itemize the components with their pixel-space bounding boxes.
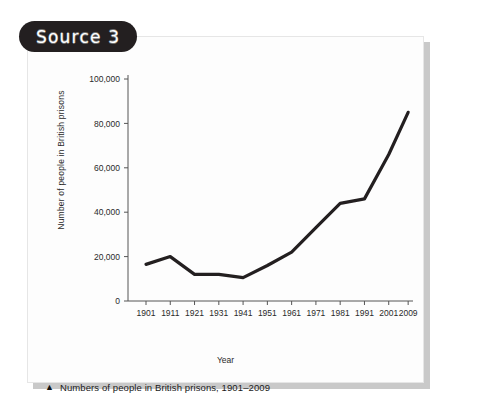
y-tick-label: 40,000: [94, 207, 120, 217]
x-tick-label: 1911: [161, 308, 180, 318]
x-tick-label: 1991: [355, 308, 374, 318]
chart-container: 020,00040,00060,00080,000100,00019011911…: [28, 37, 423, 337]
screenshot-root: 020,00040,00060,00080,000100,00019011911…: [0, 0, 499, 411]
y-axis-title: Number of people in British prisons: [56, 65, 66, 255]
x-tick-label: 1921: [185, 308, 204, 318]
x-tick-label: 1951: [258, 308, 277, 318]
x-tick-label: 1941: [234, 308, 253, 318]
x-tick-label: 1961: [282, 308, 301, 318]
y-tick-label: 60,000: [94, 163, 120, 173]
triangle-icon: ▲: [45, 383, 54, 392]
figure-caption: ▲ Numbers of people in British prisons, …: [28, 382, 423, 393]
x-tick-label: 1981: [331, 308, 350, 318]
x-tick-label: 1901: [137, 308, 156, 318]
x-tick-label: 2001: [379, 308, 398, 318]
y-tick-label: 0: [115, 296, 120, 306]
data-series-line: [146, 112, 408, 277]
source-badge: Source 3: [19, 21, 137, 52]
x-axis-title: Year: [28, 355, 423, 365]
y-tick-label: 100,000: [89, 74, 120, 84]
line-chart: 020,00040,00060,00080,000100,00019011911…: [28, 37, 423, 337]
y-tick-label: 80,000: [94, 119, 120, 129]
y-tick-label: 20,000: [94, 252, 120, 262]
x-tick-label: 1931: [209, 308, 228, 318]
x-tick-label: 2009: [399, 308, 418, 318]
caption-text: Numbers of people in British prisons, 19…: [60, 382, 270, 393]
x-tick-label: 1971: [306, 308, 325, 318]
source-card: 020,00040,00060,00080,000100,00019011911…: [27, 36, 424, 383]
source-badge-label: Source 3: [36, 27, 120, 47]
